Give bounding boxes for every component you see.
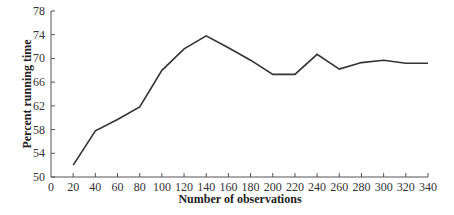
x-axis-title: Number of observations: [178, 192, 301, 206]
y-tick-label: 66: [33, 75, 45, 89]
y-tick-label: 70: [33, 51, 45, 65]
x-tick-label: 100: [153, 180, 171, 194]
y-tick-label: 50: [33, 170, 45, 184]
data-series: [73, 36, 428, 165]
x-tick-label: 240: [308, 180, 326, 194]
x-tick-label: 20: [67, 180, 79, 194]
y-tick-label: 78: [33, 4, 45, 18]
x-tick-label: 280: [352, 180, 370, 194]
y-axis-title: Percent running time: [20, 39, 34, 149]
x-tick-label: 260: [330, 180, 348, 194]
x-axis: 0204060801001201401601802002202402602803…: [48, 173, 437, 194]
y-tick-label: 62: [33, 99, 45, 113]
x-tick-label: 300: [375, 180, 393, 194]
y-tick-label: 58: [33, 123, 45, 137]
x-tick-label: 0: [48, 180, 54, 194]
y-tick-label: 74: [33, 28, 45, 42]
x-tick-label: 320: [397, 180, 415, 194]
y-tick-label: 54: [33, 146, 45, 160]
x-tick-label: 80: [134, 180, 146, 194]
y-axis: 5054586266707478: [33, 4, 55, 184]
x-tick-label: 40: [89, 180, 101, 194]
line-chart: 5054586266707478 02040608010012014016018…: [0, 0, 454, 215]
series-line: [73, 36, 428, 165]
x-tick-label: 60: [112, 180, 124, 194]
x-tick-label: 340: [419, 180, 437, 194]
